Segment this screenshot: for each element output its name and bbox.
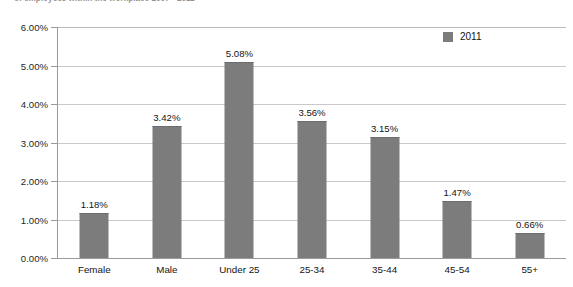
y-axis-tick bbox=[51, 258, 57, 259]
bar[interactable] bbox=[515, 233, 544, 258]
legend-swatch-icon bbox=[443, 32, 453, 42]
bar-slot: 3.56% bbox=[276, 27, 349, 258]
bar-slot: 3.42% bbox=[131, 27, 204, 258]
bar-value-label: 1.18% bbox=[81, 199, 108, 210]
figure-caption-bottom bbox=[14, 279, 534, 287]
bar-value-label: 3.42% bbox=[153, 112, 180, 123]
bar-value-label: 3.15% bbox=[371, 123, 398, 134]
x-axis-category-label: 35-44 bbox=[348, 264, 421, 275]
bar-value-label: 1.47% bbox=[444, 187, 471, 198]
y-axis-tick-label: 2.00% bbox=[2, 176, 48, 187]
x-axis-category-label: 55+ bbox=[493, 264, 566, 275]
bar[interactable] bbox=[297, 121, 326, 258]
y-axis-tick-label: 6.00% bbox=[2, 22, 48, 33]
x-axis-category-label: 45-54 bbox=[421, 264, 494, 275]
bar-slot: 1.47% bbox=[421, 27, 494, 258]
y-axis-tick bbox=[51, 66, 57, 67]
x-axis-category-label: 25-34 bbox=[276, 264, 349, 275]
x-axis-category-label: Male bbox=[131, 264, 204, 275]
bar[interactable] bbox=[152, 126, 181, 258]
y-axis-tick-label: 1.00% bbox=[2, 214, 48, 225]
x-axis-category-label: Under 25 bbox=[203, 264, 276, 275]
bar-slot: 3.15% bbox=[348, 27, 421, 258]
bar[interactable] bbox=[80, 213, 109, 258]
bar[interactable] bbox=[443, 201, 472, 258]
bar-value-label: 5.08% bbox=[226, 48, 253, 59]
chart-legend: 2011 bbox=[443, 31, 482, 42]
plot-area: 1.18%3.42%5.08%3.56%3.15%1.47%0.66% bbox=[58, 27, 566, 258]
bar-slot: 0.66% bbox=[493, 27, 566, 258]
y-axis-tick-label: 3.00% bbox=[2, 137, 48, 148]
y-axis-tick-label: 0.00% bbox=[2, 253, 48, 264]
bar-value-label: 0.66% bbox=[516, 219, 543, 230]
bar-slot: 5.08% bbox=[203, 27, 276, 258]
bar-value-label: 3.56% bbox=[298, 107, 325, 118]
x-axis-category-label: Female bbox=[58, 264, 131, 275]
chart-figure: of employees within the workplace 2007 -… bbox=[0, 0, 573, 287]
legend-label: 2011 bbox=[460, 31, 482, 42]
y-axis-tick bbox=[51, 181, 57, 182]
y-axis-tick bbox=[51, 104, 57, 105]
gridline bbox=[58, 258, 566, 259]
y-axis-tick bbox=[51, 143, 57, 144]
bar[interactable] bbox=[225, 62, 254, 258]
bar-slot: 1.18% bbox=[58, 27, 131, 258]
y-axis-tick-label: 4.00% bbox=[2, 99, 48, 110]
bar[interactable] bbox=[370, 137, 399, 258]
y-axis-tick bbox=[51, 27, 57, 28]
y-axis-tick-label: 5.00% bbox=[2, 60, 48, 71]
y-axis-tick bbox=[51, 220, 57, 221]
